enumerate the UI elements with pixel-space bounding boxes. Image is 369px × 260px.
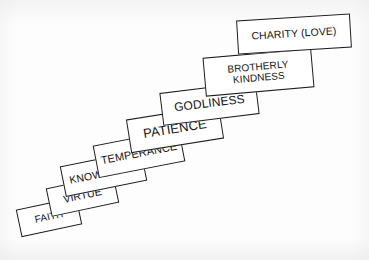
step-label-charity-love: CHARITY (LOVE) <box>247 25 341 42</box>
step-label-brotherly-kindness: BROTHERLY KINDNESS <box>223 59 294 87</box>
diagram-canvas: FAITH VIRTUE KNOWLEDGE TEMPERANCE PATIEN… <box>0 0 369 260</box>
step-box-brotherly-kindness[interactable]: BROTHERLY KINDNESS <box>203 48 315 96</box>
step-box-charity-love[interactable]: CHARITY (LOVE) <box>236 14 352 55</box>
